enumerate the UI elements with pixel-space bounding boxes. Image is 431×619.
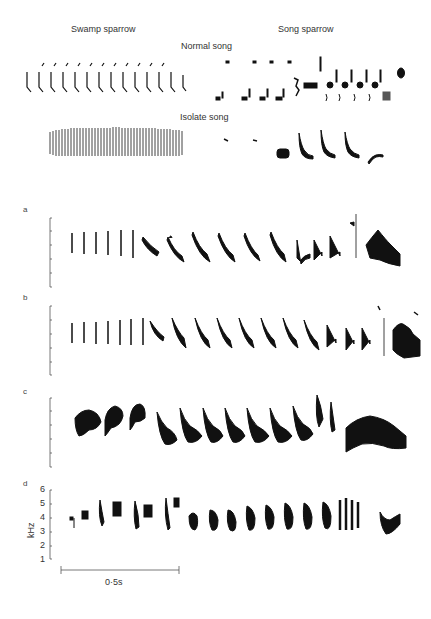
panel-b-sonogram (72, 306, 420, 358)
song-isolate-sonogram (224, 130, 383, 164)
panel-d-sonogram (70, 498, 400, 534)
swamp-isolate-sonogram (50, 127, 182, 156)
swamp-normal-sonogram (27, 63, 186, 92)
panel-c-sonogram (75, 395, 406, 452)
song-normal-sonogram (216, 57, 405, 101)
axes (50, 218, 179, 574)
sonogram-figure (0, 0, 431, 619)
panel-a-sonogram (72, 214, 400, 266)
